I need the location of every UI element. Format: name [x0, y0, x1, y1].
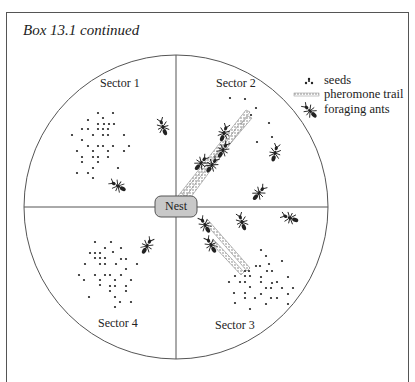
legend-seeds-label: seeds: [324, 73, 351, 88]
sector-1-label: Sector 1: [100, 76, 140, 91]
seeds-sector-4: [78, 241, 138, 308]
nest-label: Nest: [155, 199, 197, 214]
legend-ant-icon: [299, 100, 320, 121]
sector-3-label: Sector 3: [215, 318, 255, 333]
seeds-sector-1: [71, 112, 130, 179]
sector-4-label: Sector 4: [98, 316, 138, 331]
legend-foraging-ants-label: foraging ants: [324, 102, 390, 117]
legend-pheromone-trail-icon: [294, 93, 319, 96]
sector-2-label: Sector 2: [216, 76, 256, 91]
legend-pheromone-trail-label: pheromone trail: [324, 87, 404, 102]
